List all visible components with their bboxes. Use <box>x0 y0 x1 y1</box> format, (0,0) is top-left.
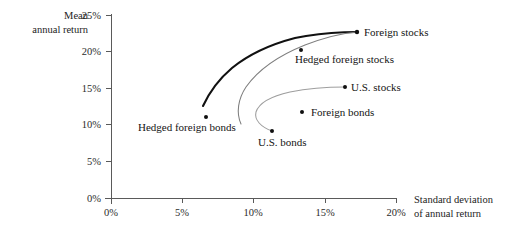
point-label-hedged-foreign-stocks: Hedged foreign stocks <box>295 53 394 65</box>
y-axis-title-line2: annual return <box>32 24 88 35</box>
x-axis-title-line1: Standard deviation <box>414 194 494 205</box>
x-tick-label-15: 15% <box>315 207 335 218</box>
datapoint-us-bonds <box>270 129 274 133</box>
point-label-foreign-stocks: Foreign stocks <box>364 26 428 38</box>
y-tick-label-5: 5% <box>87 156 101 167</box>
datapoint-us-stocks <box>343 85 347 89</box>
y-axis-title-line1: Mean <box>64 10 89 21</box>
point-label-us-bonds: U.S. bonds <box>258 136 307 148</box>
point-label-foreign-bonds: Foreign bonds <box>311 106 374 118</box>
y-axis-ticks <box>105 15 111 198</box>
x-tick-label-20: 20% <box>386 207 406 218</box>
point-label-us-stocks: U.S. stocks <box>351 81 401 93</box>
datapoint-foreign-stocks <box>355 30 359 34</box>
datapoint-foreign-bonds <box>300 110 304 114</box>
y-tick-label-20: 20% <box>82 46 102 57</box>
x-axis-title-line2: of annual return <box>414 208 482 219</box>
x-tick-label-5: 5% <box>175 207 189 218</box>
point-label-hedged-foreign-bonds: Hedged foreign bonds <box>138 121 236 133</box>
datapoint-hedged-foreign-stocks <box>299 48 303 52</box>
datapoint-hedged-foreign-bonds <box>204 115 208 119</box>
chart-container: 25% 20% 15% 10% 5% 0% 0% 5% 10% 15% 20% … <box>0 0 508 240</box>
y-tick-label-10: 10% <box>82 119 102 130</box>
x-tick-label-10: 10% <box>243 207 263 218</box>
x-tick-label-0: 0% <box>104 207 118 218</box>
y-tick-label-0: 0% <box>87 193 101 204</box>
y-tick-label-15: 15% <box>82 83 102 94</box>
x-axis-ticks <box>111 198 396 204</box>
investment-frontier-chart: 25% 20% 15% 10% 5% 0% 0% 5% 10% 15% 20% … <box>0 0 508 240</box>
